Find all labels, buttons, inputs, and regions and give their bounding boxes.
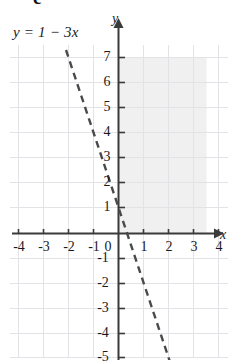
y-tick-label--2: -2 <box>92 276 114 290</box>
x-tick-label--4: -4 <box>8 240 30 254</box>
y-tick-label--4: -4 <box>92 326 114 340</box>
y-tick-label--5: -5 <box>92 350 114 364</box>
y-tick-label-5: 5 <box>100 100 114 114</box>
x-tick-label-2: 2 <box>162 240 176 254</box>
x-tick-label-4: 4 <box>212 240 226 254</box>
y-tick-label-3: 3 <box>100 150 114 164</box>
x-tick-label--3: -3 <box>33 240 55 254</box>
y-tick-label--3: -3 <box>92 301 114 315</box>
y-tick-label--1: -1 <box>92 251 114 265</box>
y-tick-label-6: 6 <box>100 75 114 89</box>
y-tick-label-2: 2 <box>100 175 114 189</box>
x-tick-label-3: 3 <box>187 240 201 254</box>
x-tick-label-1: 1 <box>137 240 151 254</box>
y-axis-arrow <box>114 18 124 28</box>
y-tick-label-1: 1 <box>100 200 114 214</box>
x-tick-label--2: -2 <box>58 240 80 254</box>
y-tick-label-7: 7 <box>100 50 114 64</box>
y-tick-label-4: 4 <box>100 125 114 139</box>
